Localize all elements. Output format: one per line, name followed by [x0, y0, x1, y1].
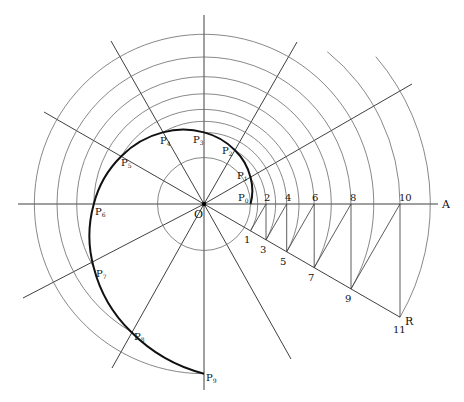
label-11: 11 — [393, 324, 406, 335]
spiral-curve — [89, 130, 252, 374]
label-P3: P3 — [193, 134, 204, 146]
label-7: 7 — [308, 272, 314, 283]
ray-label-R: R — [405, 315, 414, 328]
label-4: 4 — [285, 192, 291, 203]
ray-300 — [204, 204, 291, 359]
arc-10 — [327, 52, 400, 204]
zigzag-construction — [251, 204, 401, 317]
arc-11 — [376, 57, 431, 318]
label-P5: P5 — [121, 157, 132, 169]
label-8: 8 — [350, 192, 356, 203]
ray-210 — [23, 204, 204, 298]
radial-lines — [18, 15, 438, 390]
label-6: 6 — [312, 192, 318, 203]
label-P4: P4 — [160, 135, 171, 147]
equiangular-spiral-diagram: O A R P0 P1 P2 P3 P4 P5 P6 P7 P8 P9 2 4 … — [0, 0, 464, 402]
ray-240 — [112, 204, 204, 368]
ray-30 — [204, 84, 412, 204]
label-2: 2 — [264, 192, 270, 203]
origin-point — [202, 202, 206, 206]
label-P1: P1 — [237, 170, 248, 182]
label-9: 9 — [345, 293, 351, 304]
label-P0: P0 — [238, 192, 249, 204]
label-3: 3 — [260, 244, 266, 255]
label-P9: P9 — [206, 372, 217, 384]
label-P7: P7 — [96, 268, 107, 280]
label-10: 10 — [399, 192, 412, 203]
origin-label: O — [194, 208, 203, 221]
label-1: 1 — [244, 234, 250, 245]
axis-point-labels: 2 4 6 8 10 — [264, 192, 412, 203]
label-P8: P8 — [134, 331, 145, 343]
label-P6: P6 — [95, 206, 106, 218]
label-5: 5 — [280, 256, 286, 267]
arc-5 — [121, 109, 299, 251]
spiral-point-labels: P0 P1 P2 P3 P4 P5 P6 P7 P8 P9 — [95, 134, 249, 384]
ray-R — [204, 204, 400, 317]
axis-label-A: A — [441, 198, 451, 211]
